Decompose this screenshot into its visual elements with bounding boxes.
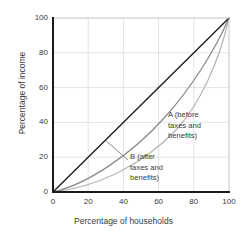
annotation-curve-b: B (after taxes and benefits) (130, 152, 163, 184)
x-tick-label-20: 20 (77, 198, 99, 206)
annotation-a-line-3: benefits) (168, 131, 201, 142)
y-tick-label-80: 80 (26, 49, 48, 57)
x-tick-label-0: 0 (42, 198, 64, 206)
x-tick-label-80: 80 (183, 198, 205, 206)
y-tick-label-20: 20 (26, 153, 48, 161)
annotation-a-line-2: taxes and (168, 121, 201, 132)
x-tick-label-40: 40 (112, 198, 134, 206)
lorenz-curve-figure: 100 80 60 40 20 0 0 20 40 60 80 100 Perc… (0, 0, 247, 237)
y-tick-label-0: 0 (26, 188, 48, 196)
y-axis-title: Percentage of income (17, 33, 27, 153)
x-tick-label-100: 100 (218, 198, 240, 206)
annotation-b-line-1: B (after (130, 152, 163, 163)
annotation-b-line-3: benefits) (130, 173, 163, 184)
x-axis-title: Percentage of households (0, 216, 247, 226)
annotation-a-line-1: A (before (168, 110, 201, 121)
y-tick-label-40: 40 (26, 118, 48, 126)
y-tick-label-60: 60 (26, 84, 48, 92)
y-tick-label-100: 100 (26, 14, 48, 22)
annotation-curve-a: A (before taxes and benefits) (168, 110, 201, 142)
annotation-b-line-2: taxes and (130, 163, 163, 174)
x-tick-label-60: 60 (148, 198, 170, 206)
